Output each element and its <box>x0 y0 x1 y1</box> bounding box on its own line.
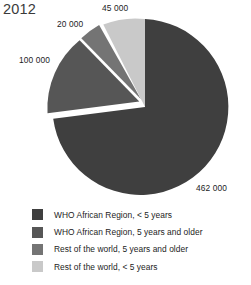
legend-swatch-icon <box>32 261 43 272</box>
legend-item-who-african-under5[interactable]: WHO African Region, < 5 years <box>32 206 247 223</box>
data-label-462000: 462 000 <box>196 183 227 193</box>
legend-item-label: WHO African Region, 5 years and older <box>54 227 202 237</box>
data-label-20000: 20 000 <box>57 19 83 29</box>
chart-legend: WHO African Region, < 5 years WHO Africa… <box>32 206 247 276</box>
legend-item-label: Rest of the world, 5 years and older <box>54 244 188 254</box>
legend-item-rest-world-under5[interactable]: Rest of the world, < 5 years <box>32 258 247 275</box>
pie-chart-graphic <box>0 0 251 205</box>
chart-figure: 2012 462 000 100 000 20 000 45 000 WHO A… <box>0 0 251 285</box>
legend-swatch-icon <box>32 209 43 220</box>
legend-swatch-icon <box>32 227 43 238</box>
data-label-45000: 45 000 <box>102 3 128 13</box>
data-label-100000: 100 000 <box>19 55 50 65</box>
legend-item-label: Rest of the world, < 5 years <box>54 262 158 272</box>
legend-item-rest-world-5plus[interactable]: Rest of the world, 5 years and older <box>32 241 247 258</box>
legend-item-label: WHO African Region, < 5 years <box>54 210 172 220</box>
legend-item-who-african-5plus[interactable]: WHO African Region, 5 years and older <box>32 223 247 240</box>
legend-swatch-icon <box>32 244 43 255</box>
